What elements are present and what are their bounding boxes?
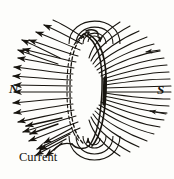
field-line	[53, 20, 84, 38]
field-line-arrow	[22, 40, 60, 58]
field-line-arrow	[14, 85, 72, 86]
field-line	[99, 51, 160, 73]
field-line-arrow	[14, 67, 73, 74]
coil-front-highlight	[104, 78, 105, 104]
top-loops-group	[69, 21, 120, 44]
field-line	[97, 108, 154, 134]
field-line-arrow	[36, 32, 80, 50]
field-line-arrow	[13, 98, 72, 103]
north-pole-label: N	[9, 82, 18, 95]
coil-group	[54, 30, 106, 150]
field-line-arrow	[13, 76, 72, 80]
south-pole-label: S	[157, 83, 164, 96]
current-label: Current	[19, 151, 57, 164]
field-line	[99, 105, 160, 127]
field-line	[91, 117, 130, 152]
magnetic-field-diagram: N S Current	[0, 0, 174, 179]
field-line-arrow	[18, 110, 74, 122]
